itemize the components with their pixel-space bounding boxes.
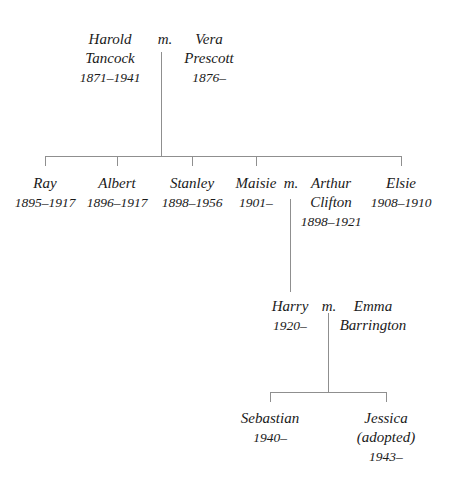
life-dates: 1940– [241,428,299,447]
surname: Clifton [301,193,362,212]
life-dates: 1943– [357,447,415,466]
given-name: Harold [80,30,141,49]
family-tree: Harold Tancock 1871–1941 m. Vera Prescot… [0,0,455,478]
child-tick [45,156,46,166]
marriage-label: m. [158,30,173,49]
descent-line [290,199,291,292]
given-name: Arthur [301,174,362,193]
given-name: Elsie [371,174,432,193]
given-name: Sebastian [241,409,299,428]
child-tick [270,392,271,402]
child-tick [401,156,402,166]
sibling-bar [45,156,402,157]
child-tick [117,156,118,166]
person-vera-prescott: Vera Prescott 1876– [184,30,233,87]
child-tick [192,156,193,166]
life-dates: 1908–1910 [371,193,432,212]
marriage-label: m. [284,174,299,193]
adoption-note: (adopted) [357,428,415,447]
marriage-label: m. [322,297,337,316]
given-name: Maisie [236,174,277,193]
person-sebastian: Sebastian 1940– [241,409,299,447]
person-stanley: Stanley 1898–1956 [162,174,223,212]
child-tick [386,392,387,402]
person-albert: Albert 1896–1917 [87,174,148,212]
life-dates: 1895–1917 [15,193,76,212]
life-dates: 1876– [184,68,233,87]
surname: Tancock [80,49,141,68]
child-tick [256,156,257,166]
life-dates: 1901– [236,193,277,212]
person-maisie: Maisie 1901– [236,174,277,212]
sibling-bar [270,392,387,393]
surname: Prescott [184,49,233,68]
given-name: Harry [272,297,309,316]
life-dates: 1871–1941 [80,68,141,87]
given-name: Jessica [357,409,415,428]
descent-line [161,52,162,156]
person-elsie: Elsie 1908–1910 [371,174,432,212]
person-arthur-clifton: Arthur Clifton 1898–1921 [301,174,362,231]
person-jessica: Jessica (adopted) 1943– [357,409,415,466]
person-emma-barrington: Emma Barrington [340,297,407,335]
life-dates: 1898–1956 [162,193,223,212]
given-name: Stanley [162,174,223,193]
person-harry: Harry 1920– [272,297,309,335]
given-name: Vera [184,30,233,49]
person-ray: Ray 1895–1917 [15,174,76,212]
given-name: Albert [87,174,148,193]
person-harold-tancock: Harold Tancock 1871–1941 [80,30,141,87]
life-dates: 1920– [272,316,309,335]
given-name: Emma [340,297,407,316]
life-dates: 1896–1917 [87,193,148,212]
given-name: Ray [15,174,76,193]
life-dates: 1898–1921 [301,212,362,231]
descent-line [328,313,329,392]
surname: Barrington [340,316,407,335]
